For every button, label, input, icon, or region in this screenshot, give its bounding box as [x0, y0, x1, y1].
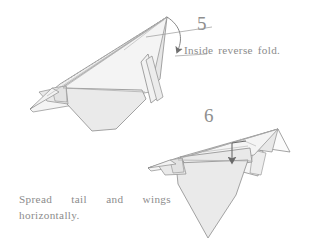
step-number-6: 6 [204, 106, 214, 125]
step-5-caption: Inside reverse fold. [184, 43, 311, 59]
instruction-sheet: 5 Inside reverse fold. 6 Spread tail and… [0, 0, 311, 249]
step-6-caption: Spread tail and wings horizontally. [19, 192, 171, 224]
step-6-caption-line-2: horizontally. [19, 208, 171, 224]
step-number-5: 5 [197, 14, 207, 33]
step-6-caption-line-1: Spread tail and wings [19, 192, 171, 208]
